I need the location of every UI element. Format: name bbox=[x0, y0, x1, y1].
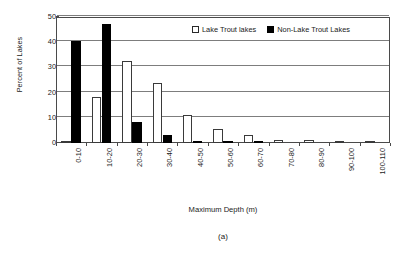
x-tick-label-70-80: 70-80 bbox=[288, 148, 296, 194]
x-tick-label-50-60: 50-60 bbox=[227, 148, 235, 194]
x-axis-title: Maximum Depth (m) bbox=[56, 205, 390, 214]
x-tick-label-0-10: 0-10 bbox=[75, 148, 83, 194]
bar-group bbox=[147, 17, 177, 143]
x-tick-mark bbox=[117, 143, 118, 146]
panel-caption: (a) bbox=[56, 232, 390, 241]
bar-group bbox=[117, 17, 147, 143]
x-tick-mark bbox=[56, 143, 57, 146]
chart-legend: Lake Trout lakesNon-Lake Trout Lakes bbox=[192, 25, 350, 34]
bar-group bbox=[269, 17, 299, 143]
y-tick-label-10: 10 bbox=[40, 114, 56, 122]
bar-group bbox=[329, 17, 359, 143]
x-tick-label-80-90: 80-90 bbox=[318, 148, 326, 194]
bar bbox=[244, 135, 254, 143]
x-axis-tick-marks bbox=[56, 143, 390, 147]
bar-chart-figure: Percent of Lakes 01020304050 0-1010-2020… bbox=[0, 0, 407, 259]
x-tick-mark bbox=[177, 143, 178, 146]
x-tick-label-30-40: 30-40 bbox=[166, 148, 174, 194]
x-tick-mark bbox=[238, 143, 239, 146]
bar bbox=[102, 24, 112, 143]
x-tick-mark bbox=[86, 143, 87, 146]
bar-group bbox=[86, 17, 116, 143]
bars-layer bbox=[56, 17, 390, 143]
bar-group bbox=[299, 17, 329, 143]
legend-swatch-icon bbox=[192, 26, 199, 33]
x-tick-mark bbox=[208, 143, 209, 146]
y-tick-label-30: 30 bbox=[40, 63, 56, 71]
x-tick-mark bbox=[390, 143, 391, 146]
x-tick-mark bbox=[147, 143, 148, 146]
legend-swatch-icon bbox=[267, 26, 274, 33]
bar bbox=[92, 97, 102, 143]
legend-entry: Non-Lake Trout Lakes bbox=[267, 25, 350, 34]
bar bbox=[183, 115, 193, 143]
bar bbox=[153, 83, 163, 143]
y-axis-title: Percent of Lakes bbox=[15, 20, 24, 110]
bar-group bbox=[238, 17, 268, 143]
legend-label: Lake Trout lakes bbox=[202, 25, 256, 34]
bar bbox=[132, 122, 142, 143]
x-tick-label-20-30: 20-30 bbox=[136, 148, 144, 194]
x-tick-label-90-100: 90-100 bbox=[348, 148, 356, 194]
x-tick-label-100-110: 100-110 bbox=[379, 148, 387, 194]
y-axis-tick-labels: 01020304050 bbox=[36, 17, 56, 143]
bar bbox=[122, 61, 132, 143]
x-tick-label-10-20: 10-20 bbox=[106, 148, 114, 194]
bar bbox=[213, 129, 223, 143]
x-tick-label-40-50: 40-50 bbox=[197, 148, 205, 194]
bar bbox=[163, 135, 173, 143]
legend-entry: Lake Trout lakes bbox=[192, 25, 256, 34]
x-tick-label-60-70: 60-70 bbox=[257, 148, 265, 194]
bar-group bbox=[56, 17, 86, 143]
bar-group bbox=[360, 17, 390, 143]
bar bbox=[71, 41, 81, 143]
y-tick-label-50: 50 bbox=[40, 13, 56, 21]
bar-group bbox=[177, 17, 207, 143]
x-tick-mark bbox=[329, 143, 330, 146]
x-tick-mark bbox=[360, 143, 361, 146]
x-tick-mark bbox=[299, 143, 300, 146]
bar-group bbox=[208, 17, 238, 143]
x-axis-tick-labels: 0-1010-2020-3030-4040-5050-6060-7070-808… bbox=[56, 148, 390, 200]
y-tick-label-40: 40 bbox=[40, 38, 56, 46]
y-tick-label-0: 0 bbox=[40, 139, 56, 147]
y-tick-label-20: 20 bbox=[40, 89, 56, 97]
x-tick-mark bbox=[269, 143, 270, 146]
legend-label: Non-Lake Trout Lakes bbox=[277, 25, 350, 34]
gridline-50 bbox=[57, 15, 389, 16]
